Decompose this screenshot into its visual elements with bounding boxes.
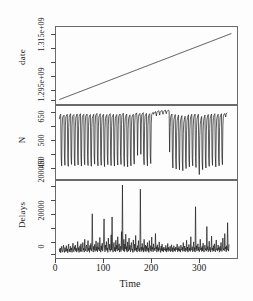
yticks-date [51, 35, 56, 101]
xticks [56, 259, 200, 264]
panel-frame-date [56, 27, 238, 105]
figure-root: date N Delays 1.315e+09 1.295e+09 650 50… [0, 0, 253, 301]
series-line-date [59, 34, 231, 100]
yticks-n [51, 113, 56, 169]
panel-stack [0, 0, 253, 301]
yticks-delays [51, 187, 56, 255]
series-line-n [59, 110, 227, 174]
series-line-delays [59, 185, 229, 253]
plot-svg [0, 0, 253, 301]
